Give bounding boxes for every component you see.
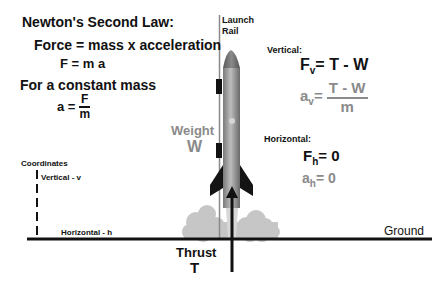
rocket-fin-left	[210, 165, 223, 196]
horizontal-force-equation: Fh= 0	[303, 147, 340, 167]
launch-lug-top	[216, 79, 222, 94]
a-denominator: m	[79, 108, 90, 121]
rocket-fin-right	[240, 165, 253, 196]
vertical-acceleration-equation: av= T - W m	[300, 80, 368, 115]
center-of-gravity-marker	[229, 118, 235, 124]
coordinates-label: Coordinates	[21, 159, 68, 168]
vertical-axis-label: Vertical - v	[41, 173, 81, 182]
weight-symbol: W	[187, 138, 202, 156]
thrust-label: Thrust	[176, 245, 216, 260]
vertical-heading: Vertical:	[267, 45, 302, 55]
constant-mass-label: For a constant mass	[20, 77, 156, 93]
launch-lug-bottom	[216, 143, 222, 158]
horizontal-axis-label: Horizontal - h	[61, 228, 112, 237]
horizontal-acceleration-equation: ah= 0	[302, 170, 336, 189]
ground-label: Ground	[384, 224, 424, 238]
a-numerator: F	[79, 93, 90, 108]
thrust-symbol: T	[190, 259, 199, 276]
launch-rail-label: Launch Rail	[222, 15, 254, 37]
rocket-nose-cone	[223, 50, 240, 68]
a-lhs: a =	[57, 99, 75, 114]
acceleration-equation: a = F m	[57, 93, 90, 121]
vertical-force-equation: Fv= T - W	[300, 56, 368, 76]
f-equals-ma: F = m a	[60, 56, 105, 71]
force-equation: Force = mass x acceleration	[34, 37, 221, 53]
weight-label: Weight	[171, 123, 214, 138]
horizontal-heading: Horizontal:	[264, 134, 311, 144]
diagram-title: Newton's Second Law:	[22, 14, 174, 30]
